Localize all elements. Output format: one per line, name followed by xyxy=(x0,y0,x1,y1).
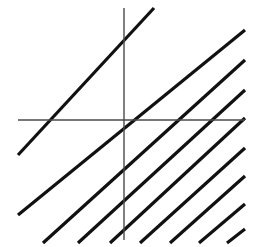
background-rect xyxy=(0,0,269,247)
line-diagram-svg xyxy=(0,0,269,247)
figure-canvas xyxy=(0,0,269,247)
